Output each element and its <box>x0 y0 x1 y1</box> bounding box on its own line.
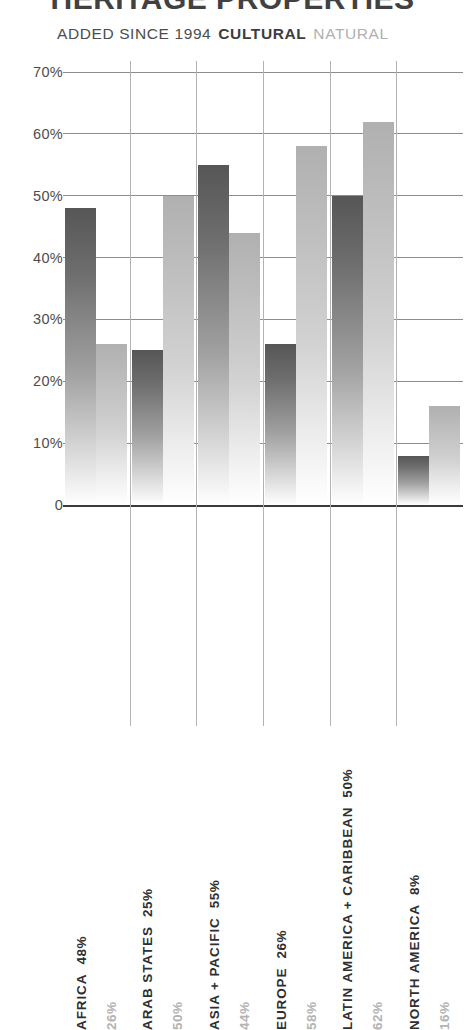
x-label-region-and-value: NORTH AMERICA8% <box>406 760 422 1030</box>
bar-natural <box>163 196 194 505</box>
x-label-natural-column: 58% <box>304 506 320 776</box>
x-axis-group: NORTH AMERICA8%16% <box>396 506 463 786</box>
x-label-cultural-column: LATIN AMERICA + CARIBBEAN50% <box>339 506 355 776</box>
x-axis-labels-layer: AFRICA48%26%ARAB STATES25%50%ASIA + PACI… <box>0 506 465 786</box>
x-axis-value-natural: 62% <box>370 760 386 1030</box>
bar-cultural <box>132 350 163 505</box>
bars-layer <box>0 0 465 506</box>
x-label-region-and-value: LATIN AMERICA + CARIBBEAN50% <box>339 760 355 1030</box>
bar-natural <box>429 406 460 505</box>
x-label-cultural-column: AFRICA48% <box>73 506 89 776</box>
x-axis-region-label: EUROPE <box>274 968 289 1030</box>
x-axis-value-natural: 50% <box>170 760 186 1030</box>
x-axis-value-cultural: 55% <box>207 880 222 909</box>
x-axis-group: EUROPE26%58% <box>263 506 330 786</box>
x-axis-value-cultural: 48% <box>74 936 89 965</box>
x-axis-region-label: ARAB STATES <box>140 926 155 1030</box>
x-label-natural-column: 26% <box>104 506 120 776</box>
x-label-region-and-value: EUROPE26% <box>273 760 289 1030</box>
x-label-cultural-column: EUROPE26% <box>273 506 289 776</box>
x-axis-region-label: LATIN AMERICA + CARIBBEAN <box>340 807 355 1030</box>
x-label-region-and-value: ARAB STATES25% <box>139 760 155 1030</box>
x-label-cultural-column: NORTH AMERICA8% <box>406 506 422 776</box>
x-label-region-and-value: ASIA + PACIFIC55% <box>206 760 222 1030</box>
x-axis-group: ARAB STATES25%50% <box>130 506 197 786</box>
x-axis-region-label: NORTH AMERICA <box>407 904 422 1030</box>
bar-cultural <box>398 456 429 505</box>
x-label-cultural-column: ASIA + PACIFIC55% <box>206 506 222 776</box>
x-axis-group: ASIA + PACIFIC55%44% <box>196 506 263 786</box>
x-axis-region-label: AFRICA <box>74 974 89 1030</box>
bar-natural <box>296 146 327 505</box>
x-axis-value-natural: 16% <box>437 760 453 1030</box>
x-axis-value-natural: 26% <box>104 760 120 1030</box>
x-axis-group: LATIN AMERICA + CARIBBEAN50%62% <box>330 506 397 786</box>
x-axis-value-cultural: 25% <box>140 889 155 918</box>
bar-natural <box>363 122 394 506</box>
x-axis-value-natural: 58% <box>304 760 320 1030</box>
bar-natural <box>229 233 260 505</box>
x-axis-value-cultural: 26% <box>274 930 289 959</box>
bar-cultural <box>198 165 229 505</box>
x-axis-value-cultural: 50% <box>340 769 355 798</box>
x-label-natural-column: 16% <box>437 506 453 776</box>
bar-cultural <box>332 196 363 505</box>
x-label-region-and-value: AFRICA48% <box>73 760 89 1030</box>
x-label-natural-column: 44% <box>237 506 253 776</box>
x-label-natural-column: 62% <box>370 506 386 776</box>
x-axis-value-cultural: 8% <box>407 875 422 896</box>
x-axis-value-natural: 44% <box>237 760 253 1030</box>
x-label-cultural-column: ARAB STATES25% <box>139 506 155 776</box>
x-axis-group: AFRICA48%26% <box>63 506 130 786</box>
bar-cultural <box>265 344 296 505</box>
bar-cultural <box>65 208 96 505</box>
bar-natural <box>96 344 127 505</box>
x-label-natural-column: 50% <box>170 506 186 776</box>
x-axis-region-label: ASIA + PACIFIC <box>207 917 222 1030</box>
